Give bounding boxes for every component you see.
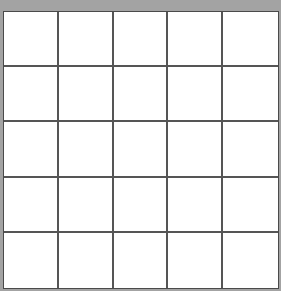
board-cell-r1-c2[interactable]	[114, 67, 169, 122]
board-cell-r1-c0[interactable]	[4, 67, 59, 122]
board-cell-r3-c0[interactable]	[4, 178, 59, 233]
board-cell-r4-c1[interactable]	[59, 233, 114, 288]
board-cell-r1-c4[interactable]	[223, 67, 278, 122]
board-cell-r1-c1[interactable]	[59, 67, 114, 122]
board-cell-r2-c1[interactable]	[59, 122, 114, 177]
board-cell-r2-c4[interactable]	[223, 122, 278, 177]
game-board	[3, 11, 279, 289]
board-cell-r3-c1[interactable]	[59, 178, 114, 233]
board-cell-r3-c3[interactable]	[168, 178, 223, 233]
board-cell-r4-c3[interactable]	[168, 233, 223, 288]
board-cell-r4-c2[interactable]	[114, 233, 169, 288]
board-cell-r4-c0[interactable]	[4, 233, 59, 288]
board-cell-r0-c2[interactable]	[114, 12, 169, 67]
board-cell-r3-c4[interactable]	[223, 178, 278, 233]
board-cell-r0-c3[interactable]	[168, 12, 223, 67]
board-cell-r0-c1[interactable]	[59, 12, 114, 67]
board-cell-r0-c0[interactable]	[4, 12, 59, 67]
board-cell-r2-c3[interactable]	[168, 122, 223, 177]
board-cell-r3-c2[interactable]	[114, 178, 169, 233]
board-cell-r1-c3[interactable]	[168, 67, 223, 122]
board-cell-r4-c4[interactable]	[223, 233, 278, 288]
board-cell-r2-c0[interactable]	[4, 122, 59, 177]
board-cell-r0-c4[interactable]	[223, 12, 278, 67]
board-cell-r2-c2[interactable]	[114, 122, 169, 177]
